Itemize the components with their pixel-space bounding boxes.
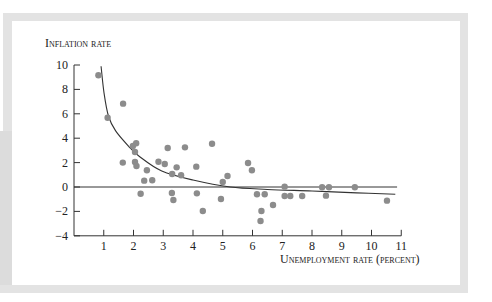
scatter-point xyxy=(323,192,329,198)
phillips-curve xyxy=(101,66,395,194)
scatter-point xyxy=(95,72,101,78)
scatter-point xyxy=(165,145,171,151)
scatter-point xyxy=(104,115,110,121)
scatter-point xyxy=(169,171,175,177)
y-tick-label: 10 xyxy=(56,58,68,72)
fitted-curve xyxy=(101,66,395,194)
y-tick-label: 6 xyxy=(62,107,68,121)
scatter-point xyxy=(209,140,215,146)
scatter-point xyxy=(120,159,126,165)
scatter-point xyxy=(144,167,150,173)
scatter-point xyxy=(218,196,224,202)
y-tick-label: −4 xyxy=(55,229,68,243)
x-tick-label: 3 xyxy=(160,239,166,253)
scatter-point xyxy=(257,218,263,224)
scatter-point xyxy=(319,184,325,190)
y-tick-label: 4 xyxy=(62,131,68,145)
scatter-point xyxy=(224,173,230,179)
scatter-point xyxy=(249,167,255,173)
scatter-point xyxy=(261,191,267,197)
scatter-point xyxy=(258,208,264,214)
scatter-point xyxy=(270,202,276,208)
scatter-point xyxy=(281,183,287,189)
x-tick-label: 7 xyxy=(279,239,285,253)
scatter-point xyxy=(287,193,293,199)
axes: 1086420−2−41234567891011 xyxy=(55,58,407,253)
scatter-point xyxy=(133,163,139,169)
scatter-point xyxy=(133,140,139,146)
scatter-point xyxy=(352,184,358,190)
x-tick-label: 6 xyxy=(250,239,256,253)
scatter-point xyxy=(141,177,147,183)
scatter-point xyxy=(299,193,305,199)
scatter-point xyxy=(169,190,175,196)
scatter-point xyxy=(194,190,200,196)
scatter-point xyxy=(281,193,287,199)
x-tick-label: 10 xyxy=(366,239,378,253)
y-tick-label: 0 xyxy=(62,180,68,194)
scatter-point xyxy=(120,100,126,106)
x-tick-label: 1 xyxy=(101,239,107,253)
scatter-point xyxy=(149,177,155,183)
scatter-point xyxy=(137,191,143,197)
scatter-point xyxy=(220,179,226,185)
x-tick-label: 4 xyxy=(190,239,196,253)
x-tick-label: 5 xyxy=(220,239,226,253)
y-axis-label: Inflation rate xyxy=(45,36,111,51)
scatter-point xyxy=(178,172,184,178)
x-tick-label: 8 xyxy=(309,239,315,253)
scatter-point xyxy=(162,161,168,167)
x-tick-label: 11 xyxy=(395,239,407,253)
data-points xyxy=(95,72,390,224)
scatter-point xyxy=(182,144,188,150)
scatter-point xyxy=(245,160,251,166)
scatter-point xyxy=(254,191,260,197)
scatter-point xyxy=(132,149,138,155)
scatter-point xyxy=(155,159,161,165)
scatter-point xyxy=(200,208,206,214)
scatter-point xyxy=(173,164,179,170)
x-axis-label: Unemployment rate (percent) xyxy=(280,252,420,267)
x-tick-label: 2 xyxy=(131,239,137,253)
y-tick-label: 2 xyxy=(62,156,68,170)
scatter-point xyxy=(170,197,176,203)
y-tick-label: −2 xyxy=(55,204,68,218)
scatter-point xyxy=(193,163,199,169)
scatter-point xyxy=(326,184,332,190)
x-tick-label: 9 xyxy=(339,239,345,253)
y-tick-label: 8 xyxy=(62,82,68,96)
scatter-point xyxy=(384,197,390,203)
